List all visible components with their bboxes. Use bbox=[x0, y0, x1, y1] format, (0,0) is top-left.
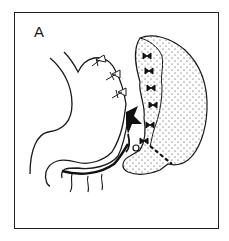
spleen-stippled-region bbox=[123, 36, 207, 174]
gastroepiploic-vessel-branches bbox=[70, 174, 103, 192]
splenic-vessel-dark-junction bbox=[126, 106, 142, 152]
gastroepiploic-vessel bbox=[62, 144, 128, 174]
anatomical-drawing bbox=[0, 0, 229, 241]
